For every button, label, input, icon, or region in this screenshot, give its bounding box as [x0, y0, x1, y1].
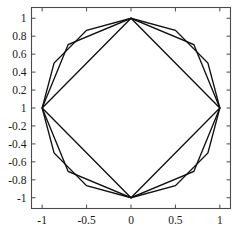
x-axis-tick-labels: -1-0.500.51	[37, 214, 223, 226]
plot-canvas: -1-0.500.51 10.80.60.40.21-0.2-0.4-0.6-0…	[0, 0, 238, 236]
x-axis-ticks	[42, 8, 220, 209]
y-tick-label: -0.6	[8, 156, 26, 168]
axis-frame	[32, 8, 231, 209]
polygon-dodecagon	[42, 18, 220, 197]
y-tick-label: -0.8	[8, 174, 26, 186]
y-tick-label: 1	[21, 102, 27, 114]
y-tick-label: -1	[17, 192, 27, 204]
y-tick-label: -0.4	[8, 138, 26, 150]
y-tick-label: 0.4	[12, 66, 27, 78]
x-tick-label: -1	[37, 214, 47, 226]
polygon-octagon	[42, 18, 220, 197]
y-tick-label: 0.2	[12, 84, 27, 96]
y-tick-label: 0.6	[12, 48, 27, 60]
x-tick-label: 0.5	[168, 214, 183, 226]
x-tick-label: 1	[217, 214, 223, 226]
figure-container: -1-0.500.51 10.80.60.40.21-0.2-0.4-0.6-0…	[0, 0, 238, 236]
polygon-series-group	[42, 18, 220, 197]
x-tick-label: 0	[128, 214, 134, 226]
x-tick-label: -0.5	[77, 214, 95, 226]
y-axis-tick-labels: 10.80.60.40.21-0.2-0.4-0.6-0.8-1	[8, 12, 26, 203]
y-tick-label: -0.2	[8, 120, 26, 132]
polygon-square	[42, 18, 220, 197]
y-tick-label: 1	[21, 12, 27, 24]
y-tick-label: 0.8	[12, 30, 27, 42]
y-axis-ticks	[32, 18, 231, 197]
